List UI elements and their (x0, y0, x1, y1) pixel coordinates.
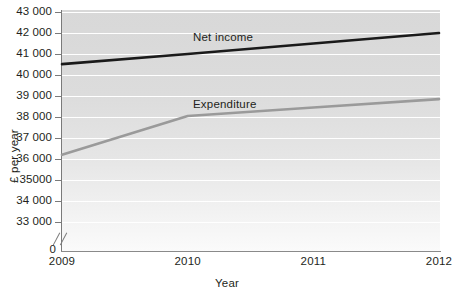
y-axis-label-wrap: 41 000 (0, 48, 52, 59)
line-expenditure (62, 99, 439, 155)
y-axis-label: 40 000 (4, 69, 52, 80)
y-axis-tick (55, 159, 61, 160)
y-axis-label: 36 000 (4, 153, 52, 164)
y-axis-label: 38 000 (4, 111, 52, 122)
y-axis-tick (55, 180, 61, 181)
y-axis-label-wrap: 33 000 (0, 216, 52, 227)
y-axis-label: 37 000 (4, 132, 52, 143)
y-axis-tick (55, 201, 61, 202)
x-axis-label: 2012 (409, 255, 454, 267)
y-axis-tick (55, 54, 61, 55)
y-axis-label: 41 000 (4, 48, 52, 59)
y-axis-label: 42 000 (4, 27, 52, 38)
x-axis-label: 2009 (32, 255, 92, 267)
y-axis-label: 39 000 (4, 90, 52, 101)
y-axis-tick (55, 138, 61, 139)
y-axis-tick (55, 222, 61, 223)
y-axis-label: 35000 (4, 174, 52, 185)
y-axis-label: 43 000 (4, 6, 52, 17)
y-axis-tick (55, 96, 61, 97)
y-axis-label-wrap: 35000 (0, 174, 52, 185)
line-chart: 0 £ per year Year Net income Expenditure… (0, 0, 454, 298)
y-axis-label-wrap: 36 000 (0, 153, 52, 164)
x-axis-label: 2010 (158, 255, 218, 267)
y-axis-label-wrap: 39 000 (0, 90, 52, 101)
series-lines (0, 0, 454, 298)
x-axis-label: 2011 (283, 255, 343, 267)
y-axis-tick (55, 12, 61, 13)
y-axis-tick (55, 117, 61, 118)
y-axis-label-wrap: 38 000 (0, 111, 52, 122)
y-axis-label: 34 000 (4, 195, 52, 206)
y-axis-tick (55, 75, 61, 76)
line-net-income (62, 33, 439, 64)
y-axis-label: 33 000 (4, 216, 52, 227)
y-axis-tick (55, 33, 61, 34)
y-axis-label-wrap: 34 000 (0, 195, 52, 206)
y-axis-label-wrap: 37 000 (0, 132, 52, 143)
y-axis-label-wrap: 40 000 (0, 69, 52, 80)
y-axis-label-wrap: 42 000 (0, 27, 52, 38)
y-axis-label-wrap: 43 000 (0, 6, 52, 17)
